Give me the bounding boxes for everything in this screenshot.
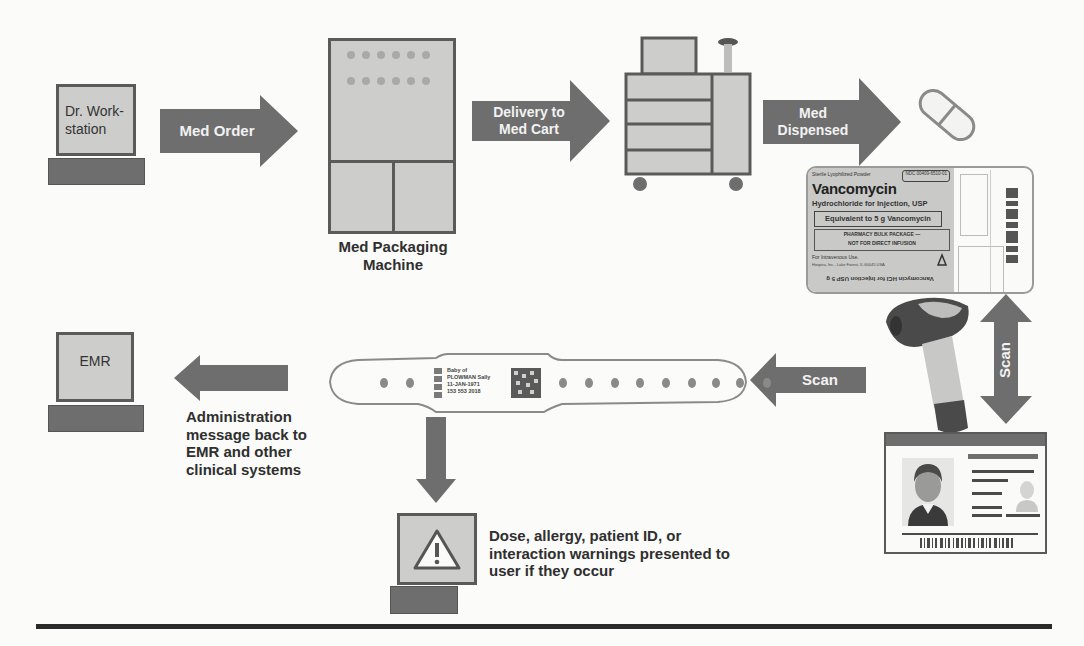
vial-subtitle: Hydrochloride for Injection, USP <box>812 199 927 208</box>
wristband-line3: 11-JAN-1971 <box>447 381 490 388</box>
dispensed-label-line2: Dispensed <box>778 122 849 139</box>
scan-vertical-label: Scan <box>996 330 1016 390</box>
dr-workstation-label-line1: Dr. Work- <box>65 102 124 120</box>
dr-workstation-keyboard <box>48 158 145 185</box>
wristband-line2: PLOWMAN Sally <box>447 374 490 381</box>
vial-manufacturer: Hospira, Inc., Lake Forest, IL 60045 USA <box>812 262 885 267</box>
barcode-scanner-icon <box>882 296 978 434</box>
dr-workstation-label-line2: station <box>65 120 124 138</box>
med-cart-icon <box>624 36 760 194</box>
wristband-line1: Baby of <box>447 367 490 374</box>
vial-strength: Equivalent to 5 g Vancomycin <box>814 211 942 227</box>
packaging-caption-line1: Med Packaging <box>318 238 468 256</box>
patient-wristband-icon <box>318 352 750 414</box>
hospira-logo-icon <box>936 254 948 266</box>
pill-icon <box>912 84 982 146</box>
delivery-label-line2: Med Cart <box>499 121 559 138</box>
staff-id-card <box>884 432 1047 554</box>
admin-caption-line4: clinical systems <box>186 461 307 479</box>
vial-top-text: Sterile Lyophilized Powder <box>812 171 871 177</box>
emr-keyboard <box>48 405 144 432</box>
warnings-caption-line2: interaction warnings presented to <box>489 545 730 563</box>
dispensed-label-line1: Med <box>799 105 827 122</box>
emr-monitor: EMR <box>56 332 134 402</box>
warnings-caption-line3: user if they occur <box>489 562 730 580</box>
wristband-text: Baby of PLOWMAN Sally 11-JAN-1971 153 55… <box>447 367 490 395</box>
admin-caption-line1: Administration <box>186 408 307 426</box>
bottom-divider <box>36 624 1052 629</box>
vial-ndc: NDC 00409-6510-01 <box>902 170 950 182</box>
emr-label: EMR <box>79 353 110 369</box>
vial-route: For Intravenous Use. <box>812 254 859 260</box>
delivery-label: Delivery to Med Cart <box>474 101 584 141</box>
id-small-photo-icon <box>1014 478 1040 512</box>
warning-keyboard <box>390 586 458 614</box>
admin-caption-line2: message back to <box>186 426 307 444</box>
wristband-line4: 153 553 2018 <box>447 388 490 395</box>
warnings-caption: Dose, allergy, patient ID, or interactio… <box>489 527 730 580</box>
to-emr-arrow-icon <box>174 355 290 401</box>
vial-package-line2: NOT FOR DIRECT INFUSION <box>815 239 949 248</box>
dispensed-label: Med Dispensed <box>765 100 861 144</box>
vial-drug-name: Vancomycin <box>812 180 897 197</box>
warning-triangle-icon <box>413 528 461 570</box>
to-warning-arrow-icon <box>415 417 457 503</box>
id-photo-icon <box>902 458 956 528</box>
vial-package-line1: PHARMACY BULK PACKAGE — <box>815 230 949 239</box>
warnings-caption-line1: Dose, allergy, patient ID, or <box>489 527 730 545</box>
vial-bottom-mirrored: Vancomycin HCl for Injection USP 5 g <box>814 276 946 282</box>
pill-grid-icon <box>341 47 445 107</box>
dr-workstation-monitor: Dr. Work- station <box>56 84 136 156</box>
med-packaging-machine <box>328 38 456 234</box>
id-barcode-icon <box>920 538 1016 548</box>
admin-caption-line3: EMR and other <box>186 443 307 461</box>
packaging-machine-caption: Med Packaging Machine <box>318 238 468 273</box>
warning-monitor <box>397 513 477 585</box>
scan-left-label: Scan <box>780 367 860 393</box>
vial-barcode-icon <box>1006 188 1020 264</box>
admin-message-caption: Administration message back to EMR and o… <box>186 408 307 479</box>
med-order-label: Med Order <box>162 109 272 153</box>
delivery-label-line1: Delivery to <box>493 104 565 121</box>
vancomycin-label: Sterile Lyophilized Powder NDC 00409-651… <box>806 166 1034 294</box>
packaging-caption-line2: Machine <box>318 256 468 274</box>
